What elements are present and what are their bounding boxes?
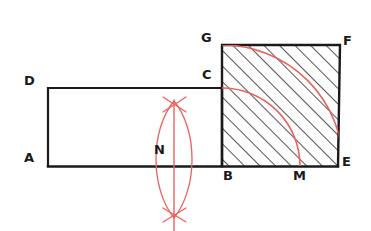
- rectangle-abcd-outline: [48, 88, 222, 166]
- vertex-label-n: N: [154, 143, 165, 156]
- vertex-label-g: G: [201, 31, 212, 44]
- vertex-label-c: C: [202, 68, 212, 81]
- vertex-label-d: D: [24, 74, 35, 87]
- vertex-label-a: A: [24, 151, 34, 164]
- bisector-arc-left: [156, 101, 174, 218]
- vertex-label-e: E: [342, 155, 351, 168]
- vertex-label-m: M: [293, 169, 306, 182]
- vertex-label-f: F: [343, 34, 352, 47]
- hatched-square-fill: [222, 45, 340, 166]
- geometry-figure: D A G C F E B M N: [0, 0, 371, 231]
- figure-canvas: [0, 0, 371, 231]
- vertex-label-b: B: [223, 169, 233, 182]
- bisector-arc-right: [174, 101, 192, 218]
